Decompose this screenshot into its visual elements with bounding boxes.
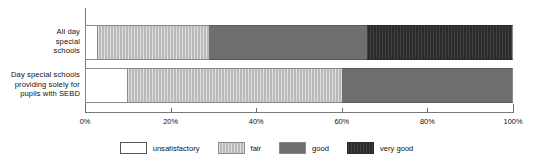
x-axis-tick-label: 20%: [163, 117, 178, 126]
bar-segment-very-good: [367, 25, 513, 60]
x-axis-tick: [256, 108, 257, 113]
x-axis-tick-label: 60%: [334, 117, 349, 126]
x-axis-tick: [342, 108, 343, 113]
x-axis-tick-label: 0%: [80, 117, 91, 126]
bar-segment-good: [342, 68, 513, 103]
stacked-bar-chart: All day special schools Day special scho…: [0, 0, 533, 163]
bar-segment-fair: [98, 25, 209, 60]
x-axis-tick: [171, 108, 172, 113]
legend-item-unsatisfactory[interactable]: unsatisfactory: [120, 142, 200, 154]
legend-item-fair[interactable]: fair: [218, 142, 262, 154]
legend-item-very-good[interactable]: very good: [347, 142, 413, 154]
legend-swatch-fair-icon: [218, 142, 245, 154]
x-axis-tick: [427, 108, 428, 113]
legend-item-good[interactable]: good: [279, 142, 329, 154]
category-label-all-day-special-schools: All day special schools: [6, 27, 80, 56]
legend-swatch-good-icon: [279, 142, 306, 154]
legend-swatch-unsatisfactory-icon: [120, 142, 147, 154]
bar-segment-unsatisfactory: [85, 68, 128, 103]
x-axis-tick-label: 80%: [420, 117, 435, 126]
x-axis-tick: [513, 104, 514, 113]
category-label-day-special-schools-sebd: Day special schools providing solely for…: [0, 70, 80, 99]
x-axis-tick-label: 100%: [504, 117, 523, 126]
legend-label: fair: [251, 144, 262, 153]
bar-segment-unsatisfactory: [85, 25, 98, 60]
legend-label: good: [312, 144, 329, 153]
x-axis-tick: [85, 104, 86, 113]
x-axis-tick-label: 40%: [249, 117, 264, 126]
legend-label: very good: [380, 144, 413, 153]
bar-segment-fair: [128, 68, 342, 103]
legend-label: unsatisfactory: [153, 144, 200, 153]
chart-legend: unsatisfactoryfairgoodvery good: [0, 139, 533, 157]
legend-swatch-very-good-icon: [347, 142, 374, 154]
x-axis-line: [85, 112, 513, 113]
bar-segment-good: [209, 25, 367, 60]
